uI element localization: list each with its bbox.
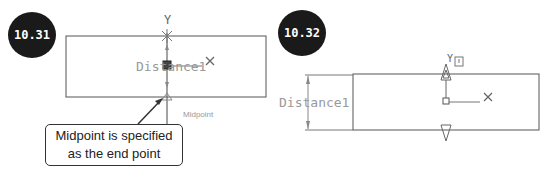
snap-tooltip: Midpoint — [183, 110, 213, 119]
x-axis-icon — [206, 57, 214, 65]
callout-line-1: Midpoint is specified — [46, 127, 182, 145]
dimension-label: Distance1 — [136, 59, 206, 74]
figure-badge: 10.32 — [278, 10, 326, 56]
dim-arrow-down-icon — [306, 121, 310, 129]
dimension-label: Distance1 — [279, 95, 349, 110]
figure-10-32: 10.32 Y Distance1 — [275, 0, 551, 175]
callout-line-2: as the end point — [46, 145, 182, 163]
grip-down-icon — [441, 125, 451, 141]
y-axis-label: Y — [164, 13, 171, 27]
ucs-origin-icon — [443, 98, 449, 104]
dim-arrow-up-icon — [306, 76, 310, 84]
y-axis-label: Y — [447, 53, 453, 64]
callout-box: Midpoint is specified as the end point — [45, 124, 183, 166]
figure-badge: 10.31 — [8, 12, 56, 58]
grip-up-icon — [441, 64, 451, 80]
figure-10-31: 10.31 Y Distance1 Midpoint Midpoint is s… — [0, 0, 275, 175]
arrow-up-icon — [165, 44, 169, 50]
arrow-down-icon — [165, 82, 169, 88]
callout-leader — [138, 100, 161, 124]
x-axis-icon — [484, 93, 492, 101]
